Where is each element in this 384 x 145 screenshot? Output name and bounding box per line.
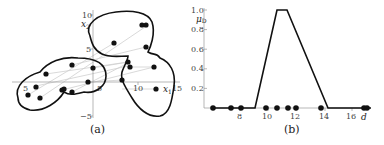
axes-a xyxy=(12,10,180,118)
caption-b: (b) xyxy=(284,123,300,136)
x-tick-10: 10 xyxy=(133,84,143,93)
x-tick-neg5: 5 xyxy=(23,84,28,93)
axes-b xyxy=(204,8,370,111)
x-axis-label-x1: x1 xyxy=(163,84,172,95)
x-tick-14: 14 xyxy=(319,112,329,121)
figure: 10 5 −5 5 5 10 x2 x1 15 xyxy=(0,0,384,145)
x-axis-label-d: d xyxy=(361,112,367,122)
y-tick-neg5: −5 xyxy=(80,112,92,121)
panel-b-membership-chart: 1.0 0.8 0.6 0.4 0.2 μD 8 10 12 14 16 d (… xyxy=(191,6,371,136)
x-tick-12: 12 xyxy=(290,112,300,121)
x-tick-10: 10 xyxy=(262,112,272,121)
y-tick-0.6: 0.6 xyxy=(191,45,204,54)
y-tick-0.4: 0.4 xyxy=(191,64,204,73)
x-tick-8: 8 xyxy=(237,112,242,121)
y-tick-0.8: 0.8 xyxy=(191,25,204,34)
caption-a: (a) xyxy=(90,123,105,136)
x-tick-16: 16 xyxy=(346,112,356,121)
y-tick-5: 5 xyxy=(86,45,91,54)
y-tick-0.2: 0.2 xyxy=(191,84,204,93)
cluster-boundaries xyxy=(17,11,174,116)
membership-curve xyxy=(212,10,371,108)
y-axis-label-mu: μD xyxy=(196,14,207,24)
panel-a-scatter: 10 5 −5 5 5 10 x2 x1 15 xyxy=(12,10,182,136)
